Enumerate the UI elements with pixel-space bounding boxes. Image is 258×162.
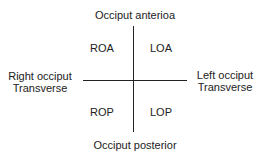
label-left-line1: Left occiput [192,69,258,81]
label-left-occiput-transverse: Left occiput Transverse [192,69,258,93]
label-right-occiput-transverse: Right occiput Transverse [4,70,76,94]
quadrant-rop: ROP [90,106,114,118]
quadrant-loa: LOA [150,42,172,54]
label-right-line1: Right occiput [4,70,76,82]
horizontal-axis-line [83,80,187,81]
quadrant-roa: ROA [90,42,114,54]
vertical-axis-line [133,26,134,132]
label-left-line2: Transverse [192,81,258,93]
quadrant-lop: LOP [150,106,172,118]
label-occiput-anterior: Occiput anterioa [83,9,187,21]
label-right-line2: Transverse [4,82,76,94]
label-occiput-posterior: Occiput posterior [83,139,187,151]
